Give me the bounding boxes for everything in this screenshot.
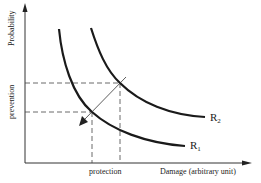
r1-label: R1 <box>190 140 201 153</box>
y-axis-label: Probability <box>8 10 16 46</box>
r2-label: R2 <box>210 112 221 125</box>
risk-diagram <box>0 0 261 183</box>
protection-label: protection <box>89 168 121 176</box>
curve-r1 <box>59 29 185 146</box>
curve-r2 <box>91 28 205 117</box>
risk-reduction-arrow <box>84 77 126 120</box>
prevention-label: prevention <box>8 85 16 119</box>
x-axis-label: Damage (arbitrary unit) <box>160 168 236 176</box>
r2-label-sub: 2 <box>217 117 221 125</box>
r1-label-sub: 1 <box>197 145 201 153</box>
axes <box>25 10 244 163</box>
y-axis-arrowhead-icon <box>23 3 28 12</box>
x-axis-arrowhead-icon <box>242 161 252 166</box>
